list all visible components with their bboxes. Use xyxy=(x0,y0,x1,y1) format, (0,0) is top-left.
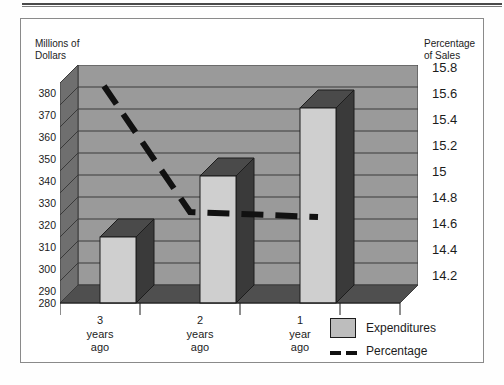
bar-2-years-ago xyxy=(200,158,254,303)
left-axis-tick: 380 xyxy=(26,88,56,99)
left-axis-tick: 320 xyxy=(26,220,56,231)
left-axis-ticks: 380 370 360 350 340 330 320 310 300 290 … xyxy=(26,0,56,385)
legend-dashed-line-icon xyxy=(330,351,360,355)
legend-label-percentage: Percentage xyxy=(366,344,427,358)
right-axis-tick: 15.6 xyxy=(432,87,457,101)
left-axis-tick: 330 xyxy=(26,198,56,209)
left-axis-tick: 370 xyxy=(26,110,56,121)
right-axis-tick: 14.2 xyxy=(432,269,457,283)
left-axis-tick: 290 xyxy=(26,286,56,297)
left-axis-tick: 280 xyxy=(26,298,56,309)
bar-1-year-ago xyxy=(300,90,354,303)
left-axis-tick: 300 xyxy=(26,264,56,275)
right-axis-tick: 14.8 xyxy=(432,191,457,205)
left-axis-tick: 350 xyxy=(26,154,56,165)
legend-swatch-icon xyxy=(330,318,356,338)
right-axis-tick: 15.8 xyxy=(432,61,457,75)
x-axis-label-3-years-ago: 3 years ago xyxy=(58,314,142,355)
right-axis-tick: 15.2 xyxy=(432,139,457,153)
legend-item-expenditures: Expenditures xyxy=(330,318,480,338)
chart-legend: Expenditures Percentage xyxy=(330,318,480,364)
left-axis-tick: 340 xyxy=(26,176,56,187)
right-axis-tick: 15 xyxy=(432,165,446,179)
x-axis-label-2-years-ago: 2 years ago xyxy=(158,314,242,355)
page-top-rule xyxy=(22,3,502,5)
left-axis-tick: 360 xyxy=(26,132,56,143)
bar-3-years-ago xyxy=(100,219,154,303)
left-axis-tick: 310 xyxy=(26,242,56,253)
figure-page: Millions of Dollars Percentage of Sales … xyxy=(0,0,504,385)
legend-item-percentage: Percentage xyxy=(330,343,480,363)
right-axis-tick: 15.4 xyxy=(432,113,457,127)
right-axis-tick: 14.4 xyxy=(432,243,457,257)
legend-label-expenditures: Expenditures xyxy=(366,321,436,335)
page-top-rule-shadow xyxy=(22,6,502,7)
plot-area xyxy=(60,65,418,310)
right-axis-tick: 14.6 xyxy=(432,217,457,231)
